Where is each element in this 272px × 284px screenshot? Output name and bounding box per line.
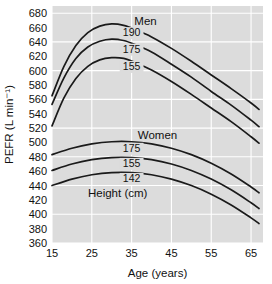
- annotation-women: Women: [138, 129, 177, 141]
- y-tick-label: 500: [29, 136, 47, 148]
- x-tick-label: 25: [86, 247, 98, 259]
- y-tick-label: 560: [29, 93, 47, 105]
- y-tick-label: 540: [29, 108, 47, 120]
- y-axis-title: PEFR (L min⁻¹): [3, 85, 15, 164]
- y-tick-label: 380: [29, 223, 47, 235]
- curve-label-women-175: 175: [123, 142, 141, 154]
- x-tick-label: 45: [165, 247, 177, 259]
- y-tick-label: 440: [29, 180, 47, 192]
- curve-label-men-155: 155: [123, 60, 141, 72]
- curve-label-women-155: 155: [123, 157, 141, 169]
- y-tick-label: 660: [29, 22, 47, 34]
- annotation-men: Men: [134, 15, 156, 27]
- y-tick-label: 480: [29, 151, 47, 163]
- pefr-age-chart: 190175155175155142 MenWomenHeight (cm) 1…: [0, 0, 272, 284]
- y-tick-labels: 3603804004204404604805005205405605806006…: [29, 7, 47, 249]
- y-tick-label: 360: [29, 237, 47, 249]
- y-tick-label: 460: [29, 165, 47, 177]
- x-tick-label: 15: [46, 247, 58, 259]
- y-tick-label: 640: [29, 36, 47, 48]
- y-tick-label: 620: [29, 50, 47, 62]
- annotation-height-cm: Height (cm): [88, 187, 148, 199]
- curve-label-men-190: 190: [123, 26, 141, 38]
- y-tick-label: 580: [29, 79, 47, 91]
- x-tick-label: 65: [245, 247, 257, 259]
- x-tick-label: 55: [205, 247, 217, 259]
- y-tick-label: 400: [29, 208, 47, 220]
- chart-canvas: 190175155175155142 MenWomenHeight (cm) 1…: [0, 0, 272, 284]
- x-tick-label: 35: [125, 247, 137, 259]
- y-tick-label: 600: [29, 65, 47, 77]
- y-tick-label: 420: [29, 194, 47, 206]
- curve-label-women-142: 142: [123, 172, 141, 184]
- y-tick-label: 680: [29, 7, 47, 19]
- y-tick-label: 520: [29, 122, 47, 134]
- curve-label-men-175: 175: [123, 43, 141, 55]
- x-axis-title: Age (years): [128, 267, 188, 279]
